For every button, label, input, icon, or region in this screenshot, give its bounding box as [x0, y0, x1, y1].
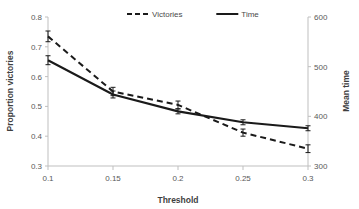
right-tick-label: 600	[314, 13, 328, 22]
left-tick-label: 0.5	[31, 102, 43, 111]
series-layer	[46, 31, 311, 153]
x-tick-label: 0.25	[235, 174, 251, 183]
chart-figure: 0.30.40.50.60.70.8 300400500600 0.10.150…	[0, 0, 359, 209]
x-tick-label: 0.1	[42, 174, 54, 183]
left-axis-ticks: 0.30.40.50.60.70.8	[31, 13, 48, 171]
left-tick-label: 0.4	[31, 132, 43, 141]
x-tick-label: 0.3	[302, 174, 314, 183]
y-axis-title-right: Mean time	[341, 70, 351, 112]
series-line-victories	[48, 36, 308, 148]
legend-label-victories: Victories	[152, 10, 183, 19]
left-tick-label: 0.7	[31, 43, 43, 52]
right-tick-label: 400	[314, 112, 328, 121]
y-axis-title-left: Proportion victories	[5, 50, 15, 131]
left-tick-label: 0.3	[31, 162, 43, 171]
legend-label-time: Time	[241, 10, 259, 19]
left-tick-label: 0.8	[31, 13, 43, 22]
x-axis-ticks: 0.10.150.20.250.3	[42, 166, 314, 183]
chart-legend: VictoriesTime	[127, 10, 259, 19]
right-tick-label: 500	[314, 63, 328, 72]
x-axis-title: Threshold	[157, 195, 198, 205]
right-tick-label: 300	[314, 162, 328, 171]
line-chart-canvas: 0.30.40.50.60.70.8 300400500600 0.10.150…	[0, 0, 359, 209]
error-bar	[46, 31, 51, 42]
error-bar	[306, 145, 311, 153]
x-tick-label: 0.15	[105, 174, 121, 183]
x-tick-label: 0.2	[172, 174, 184, 183]
right-axis-ticks: 300400500600	[308, 13, 328, 171]
left-tick-label: 0.6	[31, 73, 43, 82]
